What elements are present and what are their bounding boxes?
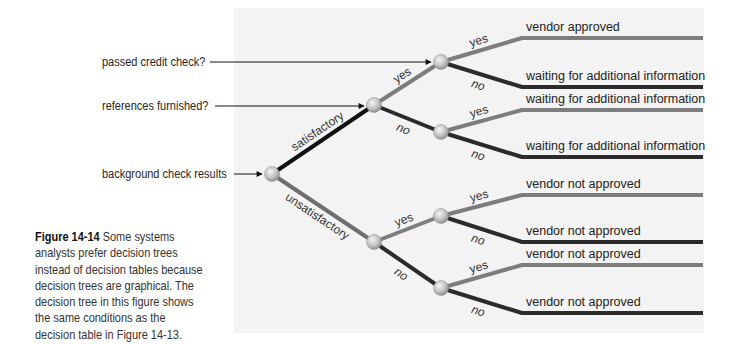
decision-node xyxy=(434,209,449,224)
caption-title: Figure 14-14 xyxy=(35,230,100,244)
caption-body: Some systems analysts prefer decision tr… xyxy=(35,230,203,342)
edge-label-no: no xyxy=(470,231,487,249)
outcome-result: vendor not approved xyxy=(526,295,641,309)
decision-node xyxy=(367,235,382,250)
edge-label-no: no xyxy=(470,302,487,319)
decision-node xyxy=(367,98,382,113)
outcome-result: waiting for additional information xyxy=(525,92,705,106)
decision-node xyxy=(434,125,449,140)
outcome-result: waiting for additional information xyxy=(525,69,705,83)
decision-node xyxy=(434,281,449,296)
edge-satisfactory xyxy=(272,105,374,174)
decision-node xyxy=(434,55,449,70)
edge-unsatisfactory xyxy=(272,174,374,242)
edge-label-unsatisfactory: unsatisfactory xyxy=(283,190,352,243)
edge-no xyxy=(374,242,441,288)
outcome-result: waiting for additional information xyxy=(525,139,705,153)
outcome-result: vendor approved xyxy=(526,20,620,34)
edge-label-no: no xyxy=(470,76,487,93)
outcome-result: vendor not approved xyxy=(526,247,641,261)
outcome-result: vendor not approved xyxy=(526,224,641,238)
root-node xyxy=(265,167,280,182)
edge-label-no: no xyxy=(470,146,487,163)
tree-nodes xyxy=(265,55,449,296)
outcome-result: vendor not approved xyxy=(526,177,641,191)
edge-label-no: no xyxy=(395,120,413,138)
figure-caption: Figure 14-14 Some systems analysts prefe… xyxy=(35,229,206,343)
